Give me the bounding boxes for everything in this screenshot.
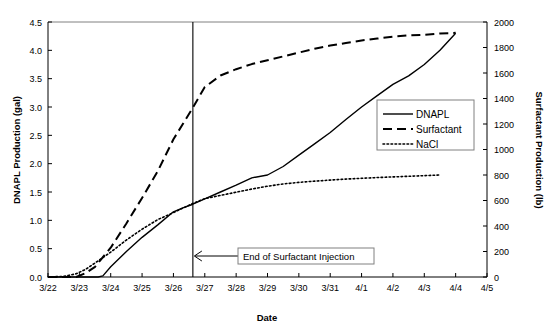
y2-tick-label: 1400 — [494, 94, 514, 104]
y-tick-label: 4.0 — [29, 46, 42, 56]
y-tick-label: 0.0 — [29, 273, 42, 283]
line-chart: 3/223/233/243/253/263/273/283/293/303/31… — [0, 0, 548, 331]
y2-tick-label: 0 — [494, 273, 499, 283]
chart-container: 3/223/233/243/253/263/273/283/293/303/31… — [0, 0, 548, 331]
y2-tick-label: 600 — [494, 196, 509, 206]
x-tick-label: 3/31 — [321, 283, 339, 293]
y-tick-label: 0.5 — [29, 244, 42, 254]
y-axis-title: DNAPL Production (gal) — [11, 96, 22, 204]
y2-tick-label: 2000 — [494, 18, 514, 28]
x-tick-label: 3/29 — [259, 283, 277, 293]
x-tick-label: 4/5 — [481, 283, 494, 293]
y2-tick-label: 200 — [494, 247, 509, 257]
y-tick-label: 2.0 — [29, 159, 42, 169]
y-tick-label: 3.5 — [29, 74, 42, 84]
chart-legend: DNAPLSurfactantNaCl — [377, 100, 474, 150]
x-tick-label: 3/30 — [290, 283, 308, 293]
y2-axis-title: Surfactant Production (lb) — [534, 91, 545, 208]
y2-tick-label: 1000 — [494, 145, 514, 155]
y-tick-label: 2.5 — [29, 131, 42, 141]
x-tick-label: 3/25 — [133, 283, 151, 293]
x-tick-label: 4/1 — [355, 283, 368, 293]
x-axis-tick-labels: 3/223/233/243/253/263/273/283/293/303/31… — [39, 283, 493, 293]
x-tick-label: 3/28 — [227, 283, 245, 293]
x-tick-label: 3/23 — [71, 283, 89, 293]
y-tick-label: 1.0 — [29, 216, 42, 226]
y2-tick-label: 800 — [494, 171, 509, 181]
x-tick-label: 3/27 — [196, 283, 214, 293]
y2-tick-label: 1600 — [494, 69, 514, 79]
annotation-label: End of Surfactant Injection — [243, 251, 354, 262]
x-tick-label: 4/3 — [418, 283, 431, 293]
y2-tick-label: 1800 — [494, 43, 514, 53]
y2-tick-label: 1200 — [494, 120, 514, 130]
x-axis-title: Date — [257, 312, 278, 323]
y2-tick-label: 400 — [494, 222, 509, 232]
y-tick-label: 4.5 — [29, 18, 42, 28]
legend-label-surfactant: Surfactant — [416, 124, 462, 135]
chart-background — [0, 0, 548, 331]
x-tick-label: 3/22 — [39, 283, 57, 293]
y-tick-label: 3.0 — [29, 103, 42, 113]
y-tick-label: 1.5 — [29, 188, 42, 198]
legend-label-nacl: NaCl — [416, 139, 438, 150]
x-tick-label: 3/26 — [165, 283, 183, 293]
x-tick-label: 3/24 — [102, 283, 120, 293]
x-tick-label: 4/2 — [387, 283, 400, 293]
legend-label-dnapl: DNAPL — [416, 109, 450, 120]
x-tick-label: 4/4 — [449, 283, 462, 293]
